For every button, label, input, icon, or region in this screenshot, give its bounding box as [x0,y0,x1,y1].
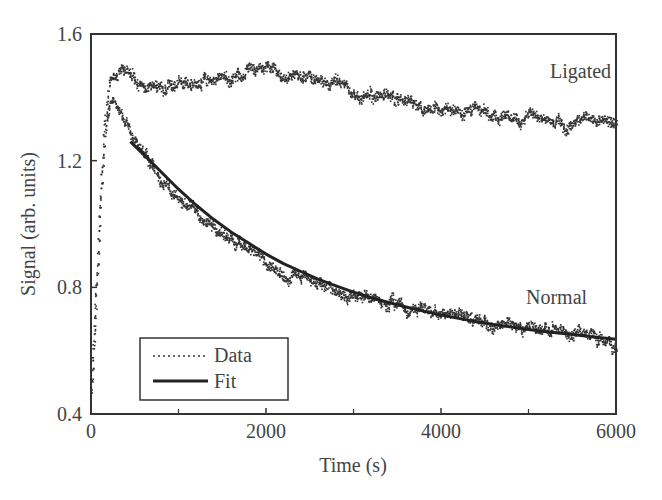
x-tick-label: 0 [86,420,96,442]
y-tick-label: 0.8 [57,276,82,298]
y-tick-label: 1.2 [57,150,82,172]
legend-data-label: Data [214,344,252,366]
y-tick-label: 0.4 [57,403,82,425]
fit-curve-normal [130,142,616,340]
x-axis-title: Time (s) [319,454,387,477]
x-tick-label: 6000 [596,420,636,442]
legend: Data Fit [140,338,288,400]
x-tick-label: 2000 [246,420,286,442]
chart-canvas: 02000400060000.40.81.21.6 Time (s) Signa… [0,0,662,500]
x-tick-label: 4000 [421,420,461,442]
annotation-normal: Normal [526,286,588,308]
y-tick-label: 1.6 [57,23,82,45]
legend-fit-label: Fit [214,370,237,392]
annotation-ligated: Ligated [550,60,611,83]
y-axis-title: Signal (arb. units) [17,152,40,296]
